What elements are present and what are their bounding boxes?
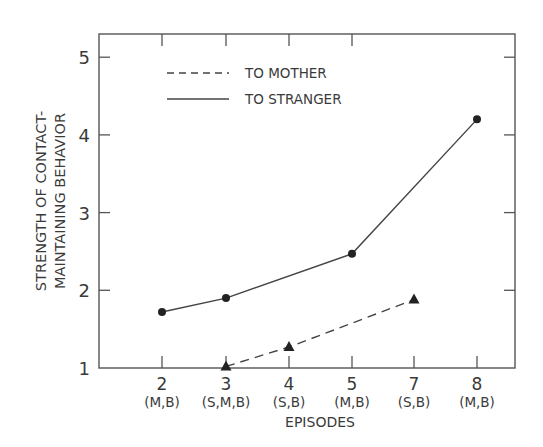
legend-label: TO MOTHER [244, 65, 327, 81]
x-tick-label: 5 [347, 374, 358, 394]
y-tick-label: 5 [79, 47, 90, 68]
circle-marker [222, 294, 230, 302]
series-line [226, 300, 414, 367]
x-tick-sublabel: (M,B) [334, 394, 370, 410]
circle-marker [348, 250, 356, 258]
x-tick-sublabel: (S,B) [398, 394, 431, 410]
plot-border [99, 34, 515, 368]
x-tick-label: 4 [284, 374, 295, 394]
x-tick-sublabel: (M,B) [144, 394, 180, 410]
series-to-stranger [158, 115, 481, 316]
circle-marker [158, 308, 166, 316]
y-axis-label-line-2: MAINTAINING BEHAVIOR [52, 113, 68, 289]
plot-frame [99, 34, 515, 368]
triangle-marker [409, 294, 420, 304]
series-line [162, 119, 477, 312]
legend-label: TO STRANGER [244, 91, 342, 107]
x-tick-label: 7 [409, 374, 420, 394]
y-tick-label: 4 [79, 125, 90, 146]
x-tick-label: 8 [472, 374, 483, 394]
data-series [158, 115, 481, 370]
y-axis-label-line-1: STRENGTH OF CONTACT- [33, 111, 49, 291]
y-axis-label: STRENGTH OF CONTACT- MAINTAINING BEHAVIO… [33, 111, 68, 291]
x-tick-label: 3 [221, 374, 232, 394]
x-tick-label: 2 [157, 374, 168, 394]
series-to-mother [221, 294, 420, 371]
x-tick-sublabel: (S,M,B) [202, 394, 251, 410]
x-tick-sublabel: (M,B) [459, 394, 495, 410]
y-tick-label: 3 [79, 203, 90, 224]
triangle-marker [284, 341, 295, 351]
legend: TO MOTHERTO STRANGER [167, 65, 342, 107]
y-tick-label: 2 [79, 280, 90, 301]
x-tick-sublabel: (S,B) [273, 394, 306, 410]
circle-marker [473, 115, 481, 123]
chart: 12345 2(M,B)3(S,M,B)4(S,B)5(M,B)7(S,B)8(… [0, 0, 543, 447]
x-axis-label: EPISODES [285, 414, 355, 430]
y-tick-label: 1 [79, 358, 90, 379]
